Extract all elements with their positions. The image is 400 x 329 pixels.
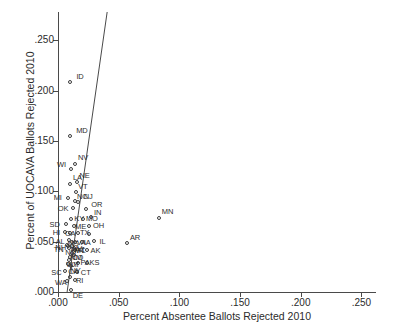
data-point-NJ2[interactable] xyxy=(87,232,91,236)
data-point-NJ[interactable] xyxy=(76,200,80,204)
data-point-MI[interactable] xyxy=(66,196,70,200)
point-label-AZ: AZ xyxy=(75,246,84,254)
x-ticklabel-.050: .050 xyxy=(89,298,149,308)
x-axis-title: Percent Absentee Ballots Rejected 2010 xyxy=(58,311,376,322)
x-ticklabel-.100: .100 xyxy=(149,298,209,308)
scatter-chart: .000.050.100.150.200.250 .000.050.100.15… xyxy=(0,0,400,329)
y-axis-title: Percent of UOCAVA Ballots Rejected 2010 xyxy=(25,1,36,301)
point-label-OH: OH xyxy=(93,222,104,230)
y-ticklabel-.000: .000 xyxy=(35,287,54,297)
point-label-MI: MI xyxy=(54,194,62,202)
y-ticklabel-.050: .050 xyxy=(35,237,54,247)
point-label-AK: AK xyxy=(91,247,101,255)
reference-line xyxy=(58,12,376,292)
x-axis-line xyxy=(58,292,376,293)
point-label-IL: IL xyxy=(99,238,105,246)
point-label-TN: TN xyxy=(54,246,64,254)
data-point-SD[interactable] xyxy=(64,222,68,226)
point-label-RI: RI xyxy=(76,277,83,285)
point-label-IN: IN xyxy=(94,209,101,217)
data-point-MD[interactable] xyxy=(68,134,72,138)
data-point-KS[interactable] xyxy=(85,261,89,265)
point-label-KS: KS xyxy=(90,259,100,267)
plot-area: IDMDNVWILANEVTMINCNJOKORKYMOINMNSDMEOHHI… xyxy=(58,12,376,292)
point-label-CA: CA xyxy=(68,268,78,276)
point-label-AR: AR xyxy=(130,234,140,242)
point-label-ID: ID xyxy=(76,73,83,81)
y-ticklabel-.150: .150 xyxy=(35,136,54,146)
point-label-WA: WA xyxy=(55,279,67,287)
x-ticklabel-.150: .150 xyxy=(210,298,270,308)
point-label-HI: HI xyxy=(53,229,60,237)
y-ticklabel-.200: .200 xyxy=(35,86,54,96)
point-label-SC: SC xyxy=(51,269,61,277)
point-label-WI: WI xyxy=(57,161,66,169)
y-ticklabel-.250: .250 xyxy=(35,35,54,45)
point-label-NV: NV xyxy=(78,154,88,162)
point-label-MN: MN xyxy=(162,208,173,216)
point-label-DE: DE xyxy=(73,292,83,300)
point-label-VT: VT xyxy=(78,183,87,191)
point-label-OK: OK xyxy=(58,205,69,213)
point-label-GA: GA xyxy=(65,230,76,238)
point-label-MD: MD xyxy=(76,127,87,135)
y-ticklabel-.100: .100 xyxy=(35,186,54,196)
x-ticklabel-.200: .200 xyxy=(271,298,331,308)
x-ticklabel-.250: .250 xyxy=(331,298,391,308)
point-label-NE: NE xyxy=(79,172,89,180)
